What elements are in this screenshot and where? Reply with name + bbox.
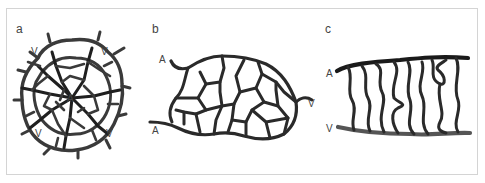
- panel-a-label-vein-bl: V: [35, 129, 42, 139]
- panel-a-label-artery: A: [67, 94, 74, 104]
- panel-c-label-vein: V: [326, 124, 333, 134]
- panel-c-network: [337, 57, 470, 134]
- panel-c-label-artery: A: [326, 69, 333, 79]
- vascular-diagram: [0, 0, 485, 183]
- panel-b-label-vein: V: [308, 99, 315, 109]
- panel-a-label-vein-tl: V: [31, 47, 38, 57]
- panel-a-label-vein-br: V: [106, 129, 113, 139]
- vein-vessel: [338, 127, 470, 135]
- panel-b-label-artery-top: A: [159, 55, 166, 65]
- panel-a-label-vein-tr: V: [101, 47, 108, 57]
- panel-b-network: [150, 56, 312, 139]
- artery-vessel: [337, 57, 468, 71]
- panel-b-label-artery-bottom: A: [152, 126, 159, 136]
